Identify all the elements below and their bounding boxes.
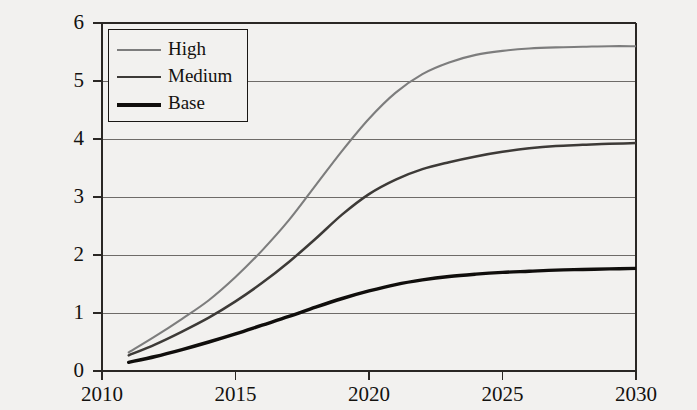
x-tick-label: 2015 <box>201 384 271 405</box>
legend-item-high: High <box>109 35 247 62</box>
y-tick-label: 0 <box>58 360 84 381</box>
y-tick-label: 1 <box>58 302 84 323</box>
y-tick-label: 4 <box>58 128 84 149</box>
legend-item-base: Base <box>109 89 247 116</box>
legend-label-medium: Medium <box>168 66 232 85</box>
legend-swatch-base <box>117 97 161 109</box>
y-tick-label: 2 <box>58 244 84 265</box>
chart-legend: High Medium Base <box>108 29 248 122</box>
legend-item-medium: Medium <box>109 62 247 89</box>
y-tick-label: 3 <box>58 186 84 207</box>
plot-area <box>0 0 697 410</box>
y-tick-label: 6 <box>58 12 84 33</box>
legend-label-high: High <box>168 39 206 58</box>
legend-label-base: Base <box>168 93 205 112</box>
chart-figure: Million MT CO2e High Medium Base 0123456… <box>0 0 697 410</box>
y-tick-label: 5 <box>58 70 84 91</box>
x-tick-label: 2025 <box>468 384 538 405</box>
legend-swatch-medium <box>117 70 161 82</box>
x-tick-label: 2030 <box>601 384 671 405</box>
x-tick-label: 2020 <box>334 384 404 405</box>
x-tick-label: 2010 <box>67 384 137 405</box>
legend-swatch-high <box>117 43 161 55</box>
